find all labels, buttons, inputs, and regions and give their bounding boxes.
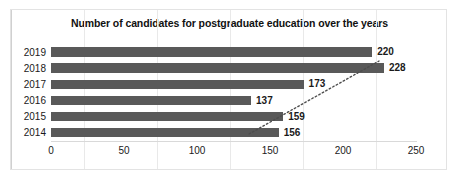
y-category-label: 2018: [24, 62, 46, 75]
bar-row[interactable]: 220: [51, 44, 416, 60]
y-axis-category-labels: 201920182017201620152014: [11, 44, 46, 141]
bar-value-label: 137: [256, 94, 273, 107]
y-category-label: 2019: [24, 46, 46, 59]
x-tick-label: 200: [335, 144, 352, 158]
x-tick-label: 150: [262, 144, 279, 158]
bar-value-label: 156: [284, 126, 301, 139]
chart-container: Number of candidates for postgraduate ed…: [10, 9, 447, 170]
bar[interactable]: [51, 112, 283, 121]
bar-row[interactable]: 173: [51, 76, 416, 92]
plot-area: 220228173137159156: [51, 44, 416, 141]
y-category-label: 2017: [24, 78, 46, 91]
x-tick-label: 50: [118, 144, 129, 158]
bar-row[interactable]: 228: [51, 60, 416, 76]
bar-row[interactable]: 156: [51, 125, 416, 141]
x-axis-line: [51, 141, 417, 142]
bar-value-label: 220: [377, 45, 394, 58]
bar-row[interactable]: 159: [51, 109, 416, 125]
x-tick-label: 250: [408, 144, 425, 158]
bar[interactable]: [51, 128, 279, 137]
x-tick-label: 0: [48, 144, 54, 158]
y-category-label: 2016: [24, 94, 46, 107]
bar-value-label: 228: [389, 61, 406, 74]
bar-value-label: 159: [288, 110, 305, 123]
y-category-label: 2015: [24, 110, 46, 123]
y-category-label: 2014: [24, 126, 46, 139]
bar[interactable]: [51, 80, 304, 89]
bar-row[interactable]: 137: [51, 93, 416, 109]
x-tick-label: 100: [189, 144, 206, 158]
x-axis-tick-labels: 050100150200250: [51, 144, 416, 160]
bar[interactable]: [51, 47, 372, 56]
bar[interactable]: [51, 96, 251, 105]
bar[interactable]: [51, 63, 384, 72]
bar-value-label: 173: [309, 77, 326, 90]
